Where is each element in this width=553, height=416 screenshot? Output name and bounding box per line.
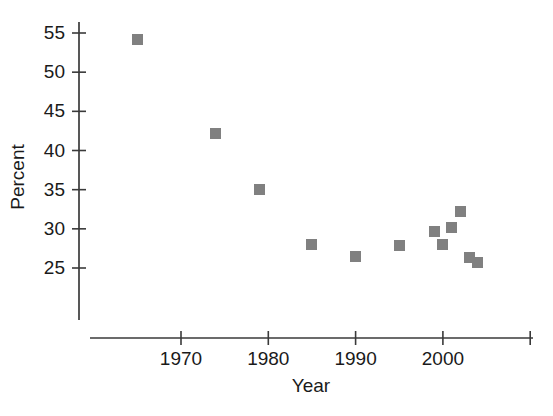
data-point — [472, 257, 483, 268]
y-axis-title: Percent — [7, 144, 28, 210]
x-tick-label: 1970 — [160, 348, 202, 369]
y-tick-label: 35 — [44, 179, 65, 200]
plot-area: 25303540455055 1970198019902000 Percent … — [0, 0, 553, 416]
x-tick-label: 1990 — [334, 348, 376, 369]
y-tick-label: 30 — [44, 218, 65, 239]
x-axis: 1970198019902000 — [90, 331, 533, 369]
data-point — [394, 240, 405, 251]
data-point — [350, 251, 361, 262]
x-tick-label: 2000 — [422, 348, 464, 369]
y-tick-label: 50 — [44, 61, 65, 82]
data-point — [210, 128, 221, 139]
data-point — [254, 184, 265, 195]
y-tick-label: 45 — [44, 100, 65, 121]
data-point — [446, 222, 457, 233]
y-tick-label: 55 — [44, 22, 65, 43]
data-point — [455, 206, 466, 217]
y-axis: 25303540455055 — [44, 22, 86, 320]
x-axis-title: Year — [292, 375, 331, 396]
scatter-chart: 25303540455055 1970198019902000 Percent … — [0, 0, 553, 416]
data-point — [429, 226, 440, 237]
data-point — [306, 239, 317, 250]
y-tick-label: 25 — [44, 257, 65, 278]
data-point — [132, 34, 143, 45]
data-markers — [132, 34, 483, 268]
y-tick-label: 40 — [44, 140, 65, 161]
x-tick-label: 1980 — [247, 348, 289, 369]
data-point — [437, 239, 448, 250]
